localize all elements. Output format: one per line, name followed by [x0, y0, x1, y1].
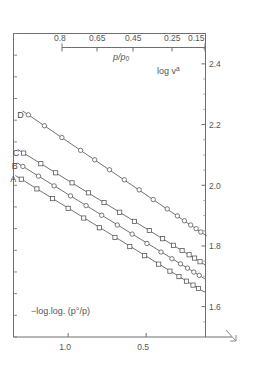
data-point [178, 262, 182, 266]
data-point [160, 237, 164, 241]
data-point [165, 207, 169, 211]
data-point [128, 244, 132, 248]
axis-corner-arrow [226, 330, 236, 341]
data-point [170, 257, 174, 261]
data-point [118, 210, 122, 214]
data-point [147, 228, 151, 232]
data-point [68, 194, 72, 198]
y-tick-label: 1.6 [209, 302, 221, 312]
data-point [196, 286, 200, 290]
data-point [122, 178, 126, 182]
y-axis-label: log va [157, 66, 180, 76]
data-point [182, 219, 186, 223]
data-point [78, 148, 82, 152]
data-point [184, 279, 188, 283]
data-point [113, 235, 117, 239]
data-series-layer [15, 111, 206, 292]
data-point [22, 151, 26, 155]
data-point [82, 216, 86, 220]
data-point [26, 113, 30, 117]
data-point [130, 232, 134, 236]
secondary-tick-label: 0.65 [89, 33, 106, 43]
data-point [115, 223, 119, 227]
data-point [107, 168, 111, 172]
series-A [15, 176, 204, 293]
x-axis-label: −log.log. (p°/p) [31, 307, 90, 316]
data-point [198, 260, 202, 264]
data-point [177, 275, 181, 279]
data-point [100, 213, 104, 217]
data-point [171, 243, 175, 247]
y-tick-label: 2.4 [209, 59, 221, 69]
data-point [66, 206, 70, 210]
data-point [50, 197, 54, 201]
data-point [36, 174, 40, 178]
data-point [39, 162, 43, 166]
data-point [168, 269, 172, 273]
data-point [194, 226, 198, 230]
data-point [137, 188, 141, 192]
chart-figure: 0.80.650.450.250.15 p/p0 log va 2.42.22.… [0, 0, 260, 369]
series-label-B: B [12, 161, 18, 171]
data-point [70, 181, 74, 185]
data-point [145, 241, 149, 245]
secondary-tick-label: 0.25 [164, 33, 181, 43]
data-point [60, 135, 64, 139]
data-point [180, 248, 184, 252]
x-tick-label: 1.0 [59, 342, 71, 352]
y-tick-label: 2.2 [209, 120, 221, 130]
secondary-tick-label: 0.15 [188, 33, 205, 43]
data-point [102, 200, 106, 204]
data-point [97, 226, 101, 230]
x-tick-label: 0.5 [137, 342, 149, 352]
right-axis-ticks [202, 49, 206, 322]
y-tick-label: 2.0 [209, 181, 221, 191]
data-point [188, 223, 192, 227]
data-point [35, 187, 39, 191]
y-tick-label: 1.8 [209, 241, 221, 251]
plot-frame [14, 33, 233, 337]
data-point [42, 124, 46, 128]
data-point [175, 214, 179, 218]
data-point [191, 283, 195, 287]
secondary-axis-label: p/p0 [113, 53, 129, 63]
bottom-axis-ticks [68, 333, 146, 337]
series-label-D: D [17, 110, 24, 120]
series-D [23, 111, 207, 236]
data-point [54, 171, 58, 175]
data-point [143, 254, 147, 258]
data-point [192, 270, 196, 274]
series-label-C: C [13, 148, 20, 158]
data-point [19, 177, 23, 181]
data-point [185, 266, 189, 270]
data-point [192, 256, 196, 260]
series-B [17, 163, 205, 279]
left-axis-ticks [14, 34, 18, 338]
series-C [18, 149, 206, 265]
series-label-A: A [10, 174, 16, 184]
data-point [84, 203, 88, 207]
data-point [157, 262, 161, 266]
data-point [21, 164, 25, 168]
data-point [151, 197, 155, 201]
data-point [52, 184, 56, 188]
secondary-axis-ticks [97, 48, 172, 52]
data-point [92, 158, 96, 162]
secondary-tick-label: 0.8 [54, 33, 66, 43]
data-point [132, 219, 136, 223]
data-point [197, 273, 201, 277]
secondary-tick-label: 0.45 [125, 33, 142, 43]
data-point [199, 230, 203, 234]
data-point [187, 253, 191, 257]
data-point [86, 191, 90, 195]
data-point [159, 250, 163, 254]
